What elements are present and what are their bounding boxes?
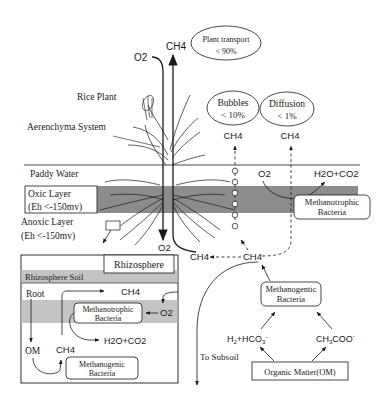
inset-ch4-bottom-label: CH4 (56, 344, 75, 355)
plant-transport-pct: < 90% (215, 47, 237, 56)
inset-methanotrophic-label: Methanotrophic (82, 305, 134, 314)
diffusion-ellipse: Diffusion < 1% (260, 92, 314, 126)
anoxic-eh-label: (Eh <-150mv) (21, 231, 75, 242)
inset-o2-label: O2 (160, 307, 173, 318)
inset-om-label: OM (25, 346, 41, 356)
rice-plant-label: Rice Plant (77, 92, 117, 102)
plant-transport-ellipse: Plant transport < 90% (191, 26, 261, 60)
methanotrophic-top-box: Methanotrophic Bacteria (294, 195, 370, 219)
methanogentic-label: Methanogentic (266, 284, 317, 294)
anoxic-layer-label: Anoxic Layer (21, 217, 74, 227)
root-label: Root (26, 289, 45, 299)
ch4-center-label: CH4 (243, 251, 262, 262)
bubbles-ellipse: Bubbles < 10% (207, 91, 259, 125)
ch4-root-label: CH4 (190, 251, 209, 262)
o2-water-label: O2 (258, 168, 271, 179)
paddy-water-label: Paddy Water (30, 169, 79, 179)
oxic-eh-label: (Eh <-150mv) (28, 202, 82, 213)
ch4-top-label: CH4 (166, 41, 186, 52)
methanogenesis-arrow (262, 265, 270, 281)
zoom-region-marker (106, 221, 120, 230)
rice-plant (128, 95, 205, 165)
oxic-layer-label: Oxic Layer (28, 189, 72, 199)
diffusion-label: Diffusion (269, 99, 305, 109)
inset-methanotrophic-label-2: Bacteria (95, 314, 122, 323)
to-subsoil-arrow (197, 262, 258, 385)
om-to-acetate-arrow (312, 347, 326, 361)
h2-to-bacteria-arrow (261, 312, 275, 329)
h2-hco3-label: H2+HCO3- (227, 334, 267, 345)
rhizosphere-title: Rhizosphere (114, 259, 165, 270)
plant-transport-label: Plant transport (203, 35, 251, 44)
methanotrophic-top-label: Methanotrophic (305, 197, 360, 207)
to-subsoil-label: To Subsoil (200, 352, 239, 362)
bubbles-label: Bubbles (217, 98, 248, 108)
acetate-to-bacteria-arrow (317, 312, 332, 329)
ch3coo-label: CH3COO- (316, 333, 355, 345)
inset-ch4-top-label: CH4 (121, 286, 140, 297)
bubbles-pct: < 10% (221, 110, 245, 120)
methanogentic-box: Methanogentic Bacteria (261, 282, 321, 306)
zoom-pointer-arrow (103, 230, 111, 243)
rhizosphere-soil-label: Rhizosphere Soil (25, 272, 84, 282)
ch4-diffusion-label: CH4 (280, 130, 299, 141)
h2o-co2-top-label: H2O+CO2 (314, 168, 359, 179)
methanotrophic-top-label-2: Bacteria (318, 207, 347, 217)
aerenchyma-label: Aerenchyma System (27, 122, 106, 132)
organic-matter-label: Organic Matter(OM) (264, 367, 336, 377)
ch4-bubbles-label: CH4 (223, 130, 242, 141)
organic-matter-box: Organic Matter(OM) (252, 362, 348, 380)
ch4-transport-arrow (173, 55, 196, 252)
inset-h2o-co2-label: H2O+CO2 (104, 336, 146, 346)
o2-root-label: O2 (158, 242, 171, 253)
o2-top-label: O2 (134, 52, 148, 63)
diffusion-pct: < 1% (277, 111, 297, 121)
inset-methanogenic-label-2: Bacteria (89, 369, 116, 378)
methanogentic-label-2: Bacteria (277, 294, 306, 304)
inset-methanogenic-label: Methanogenic (79, 360, 125, 369)
om-to-h2-arrow (260, 347, 274, 361)
rhizosphere-inset: Rhizosphere Rhizosphere Soil Root CH4 Me… (21, 255, 178, 383)
methane-cycle-diagram: O2 CH4 Plant transport < 90% Rice Plant … (0, 0, 387, 407)
